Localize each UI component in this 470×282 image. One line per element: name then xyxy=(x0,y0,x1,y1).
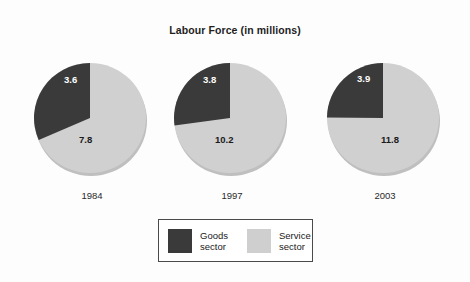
pie-goods-slice-2003 xyxy=(327,63,383,118)
legend-label-goods-line1: Goods xyxy=(200,230,228,241)
pie-value-service-1997: 10.2 xyxy=(215,134,234,145)
pie-chart-2003: 3.9 11.8 2003 xyxy=(326,56,444,178)
chart-legend: Goods sector Service sector xyxy=(158,219,313,262)
legend-swatch-service-icon xyxy=(247,229,271,253)
pie-svg-2003 xyxy=(326,56,444,178)
legend-item-service-sector: Service sector xyxy=(247,220,311,261)
pie-wrap-1997: 3.8 10.2 xyxy=(173,56,291,178)
pie-value-service-2003: 11.8 xyxy=(381,134,399,145)
legend-item-goods-sector: Goods sector xyxy=(168,220,228,261)
pie-value-goods-1997: 3.8 xyxy=(203,74,216,85)
pie-chart-1984: 3.6 7.8 1984 xyxy=(33,56,151,178)
pie-wrap-1984: 3.6 7.8 xyxy=(33,56,151,178)
legend-label-goods-line2: sector xyxy=(200,241,228,252)
pie-svg-1984 xyxy=(33,56,151,178)
legend-label-service-line1: Service xyxy=(279,230,311,241)
chart-canvas: Labour Force (in millions) 3.6 7.8 1984 … xyxy=(0,0,470,282)
pie-goods-slice-1997 xyxy=(174,63,230,125)
pie-chart-1997: 3.8 10.2 1997 xyxy=(173,56,291,178)
pie-year-label-1984: 1984 xyxy=(33,190,151,201)
pie-year-label-1997: 1997 xyxy=(173,190,291,201)
legend-swatch-goods-icon xyxy=(168,229,192,253)
page-title: Labour Force (in millions) xyxy=(0,24,470,36)
pie-value-service-1984: 7.8 xyxy=(79,134,92,145)
legend-label-service-line2: sector xyxy=(279,241,311,252)
pie-year-label-2003: 2003 xyxy=(326,190,444,201)
legend-label-goods: Goods sector xyxy=(200,230,228,252)
pie-svg-1997 xyxy=(173,56,291,178)
pie-value-goods-2003: 3.9 xyxy=(357,73,370,84)
legend-label-service: Service sector xyxy=(279,230,311,252)
pie-value-goods-1984: 3.6 xyxy=(64,74,77,85)
pie-wrap-2003: 3.9 11.8 xyxy=(326,56,444,178)
